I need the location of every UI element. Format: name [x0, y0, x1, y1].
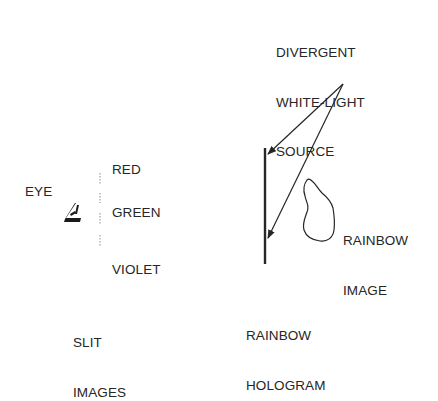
rainbow-image-label-line-1: RAINBOW	[343, 233, 408, 250]
source-label-line-1: DIVERGENT	[276, 45, 365, 62]
eye-label: EYE	[25, 184, 52, 201]
source-label-line-3: SOURCE	[276, 144, 365, 161]
slit-red-label: RED	[112, 162, 141, 179]
slit-green-label: GREEN	[112, 205, 161, 222]
slit-images-label-line-2: IMAGES	[73, 385, 126, 401]
source-label-line-2: WHITE-LIGHT	[276, 95, 365, 112]
hologram-label-line-1: RAINBOW	[246, 328, 326, 345]
eye-icon	[64, 203, 81, 222]
slit-images-label: SLIT IMAGES	[73, 302, 126, 401]
source-label: DIVERGENT WHITE-LIGHT SOURCE	[276, 12, 365, 194]
rainbow-image-label: RAINBOW IMAGE	[343, 200, 408, 332]
hologram-label: RAINBOW HOLOGRAM	[246, 295, 326, 401]
hologram-label-line-2: HOLOGRAM	[246, 378, 326, 395]
slit-violet-label: VIOLET	[112, 262, 161, 279]
rainbow-image-label-line-2: IMAGE	[343, 283, 408, 300]
slit-images-label-line-1: SLIT	[73, 335, 126, 352]
